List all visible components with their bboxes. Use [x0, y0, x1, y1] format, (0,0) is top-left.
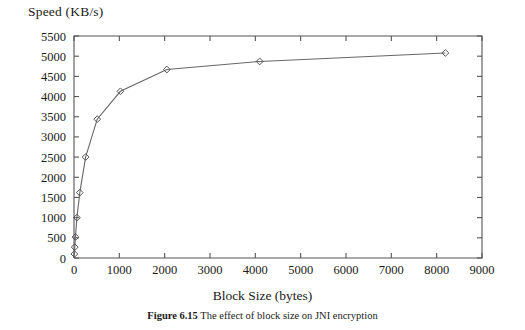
x-axis-tick-marks [74, 36, 482, 258]
svg-text:4000: 4000 [41, 90, 66, 104]
chart-plot-area: 0500100015002000250030003500400045005000… [0, 0, 525, 330]
svg-text:4500: 4500 [41, 70, 66, 84]
svg-text:2000: 2000 [41, 171, 66, 185]
svg-text:9000: 9000 [470, 263, 495, 277]
x-axis-tick-labels: 0100020003000400050006000700080009000 [71, 263, 495, 277]
figure-caption-text: The effect of block size on JNI encrypti… [200, 310, 377, 321]
y-axis-tick-marks [74, 36, 482, 258]
svg-text:3000: 3000 [41, 130, 66, 144]
chart-axes [74, 36, 482, 258]
svg-text:1000: 1000 [107, 263, 132, 277]
figure-caption-label: Figure 6.15 [147, 310, 198, 321]
svg-text:3500: 3500 [41, 110, 66, 124]
svg-text:2500: 2500 [41, 151, 66, 165]
svg-text:3000: 3000 [198, 263, 223, 277]
svg-text:5500: 5500 [41, 30, 66, 44]
svg-text:7000: 7000 [379, 263, 404, 277]
svg-text:1000: 1000 [41, 211, 66, 225]
svg-text:6000: 6000 [334, 263, 359, 277]
svg-text:2000: 2000 [152, 263, 177, 277]
svg-text:4000: 4000 [243, 263, 268, 277]
data-series-line [74, 53, 445, 254]
figure-caption: Figure 6.15 The effect of block size on … [0, 310, 525, 321]
y-axis-tick-labels: 0500100015002000250030003500400045005000… [41, 30, 66, 266]
x-axis-title: Block Size (bytes) [0, 288, 525, 304]
svg-text:5000: 5000 [288, 263, 313, 277]
svg-text:5000: 5000 [41, 50, 66, 64]
data-point-markers [71, 50, 449, 258]
svg-text:0: 0 [60, 252, 66, 266]
figure-container: Speed (KB/s) 050010001500200025003000350… [0, 0, 525, 330]
svg-text:500: 500 [47, 231, 66, 245]
svg-text:8000: 8000 [424, 263, 449, 277]
svg-text:1500: 1500 [41, 191, 66, 205]
svg-text:0: 0 [71, 263, 77, 277]
